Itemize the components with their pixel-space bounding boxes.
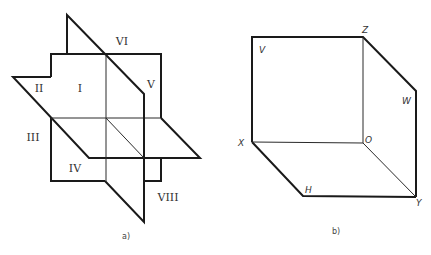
label-y: Y [416, 198, 423, 208]
octant-label-iii: III [26, 131, 39, 144]
horizontal-profile-intersection [106, 118, 144, 158]
octant-label-viii: VIII [157, 191, 179, 204]
oy-axis [363, 143, 416, 197]
frontal-plane-lower-right [144, 158, 161, 181]
panel-a-octants: I II III IV V VI VIII a) [13, 15, 200, 241]
label-w: W [402, 96, 412, 106]
label-h: H [305, 185, 312, 195]
octant-label-v: V [146, 78, 156, 91]
octant-label-iv: IV [69, 162, 82, 175]
octant-label-i: I [78, 82, 82, 95]
panel-b-projection-planes: V Z W X O H Y b) [237, 25, 423, 236]
label-v: V [259, 45, 266, 55]
octant-label-ii: II [35, 82, 44, 95]
octant-diagram: I II III IV V VI VIII a) V Z W X O H Y b… [0, 0, 431, 255]
label-z: Z [361, 25, 369, 35]
h-plane-outline [252, 142, 416, 197]
ox-axis [252, 142, 363, 143]
label-x: X [237, 138, 245, 148]
v-plane-outline [252, 37, 416, 197]
caption-a: a) [122, 232, 130, 241]
octant-label-vi: VI [115, 35, 128, 48]
profile-plane-front-edge [105, 55, 144, 222]
label-o: O [365, 135, 372, 145]
caption-b: b) [332, 227, 340, 236]
profile-plane-top-edge [67, 15, 106, 55]
